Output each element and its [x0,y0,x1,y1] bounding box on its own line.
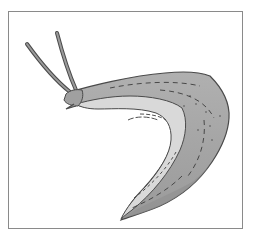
slug-body [70,72,229,220]
slug-head [64,90,83,106]
slug-illustration [0,0,255,238]
